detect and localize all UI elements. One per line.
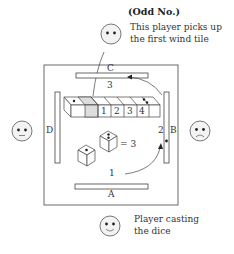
tile-number-2: 2 xyxy=(114,106,120,116)
bottom-note-line1: Player casting xyxy=(134,213,234,225)
left-player-face-icon xyxy=(12,121,32,141)
die-1-icon xyxy=(78,145,95,166)
top-note-line1: This player picks up xyxy=(130,21,234,33)
arrow-to-top xyxy=(128,77,162,95)
tile-number-1: 1 xyxy=(101,106,107,116)
dice-sum: = 3 xyxy=(120,139,136,149)
tile-number-4: 4 xyxy=(139,106,145,116)
count-3: 3 xyxy=(107,80,113,90)
wall-c xyxy=(76,73,148,78)
tile-number-3: 3 xyxy=(127,106,133,116)
wall-label-d: D xyxy=(46,125,53,135)
wall-b xyxy=(164,92,169,163)
bottom-player-face-icon xyxy=(100,216,120,236)
right-marker-dot xyxy=(165,140,168,143)
count-2: 2 xyxy=(158,125,164,135)
top-note-line2: the first wind tile xyxy=(130,33,234,45)
bottom-note-line2: the dice xyxy=(134,225,234,237)
wall-label-a: A xyxy=(108,189,115,199)
wall-label-c: C xyxy=(107,63,114,73)
bottom-player-note: Player casting the dice xyxy=(134,213,234,237)
right-player-face-icon xyxy=(190,121,210,141)
wall-d xyxy=(55,92,60,163)
top-player-note: This player picks up the first wind tile xyxy=(130,21,234,45)
arrow-to-right xyxy=(125,148,160,174)
tile-wall-3d xyxy=(64,97,160,117)
arrow-head-right xyxy=(158,143,163,149)
top-player-face-icon xyxy=(101,24,121,44)
count-1: 1 xyxy=(109,168,115,178)
wall-label-b: B xyxy=(170,125,177,135)
diagram-title: (Odd No.) xyxy=(128,6,180,17)
die-2-icon xyxy=(100,131,117,152)
